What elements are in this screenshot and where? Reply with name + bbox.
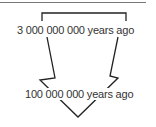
- end-time-label: 100 000 000 years ago: [24, 88, 134, 100]
- downward-arrow-icon: [0, 0, 156, 127]
- start-time-label: 3 000 000 000 years ago: [16, 24, 135, 36]
